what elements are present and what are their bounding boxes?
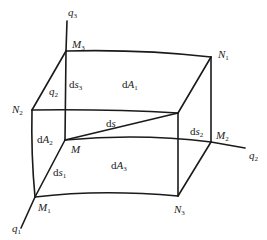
- edge-n2-m1: [32, 110, 35, 197]
- label-q2-edge: q2: [49, 86, 58, 99]
- label-m2: M2: [216, 130, 229, 143]
- label-ds2: ds2: [190, 126, 203, 139]
- label-q1: q1: [12, 223, 21, 236]
- label-q3: q3: [68, 7, 77, 20]
- axis-q3: [66, 21, 67, 51]
- edge-m3-n1: [66, 51, 211, 57]
- edge-ds: [65, 113, 178, 140]
- axis-q1: [21, 197, 35, 228]
- label-dA3: dA3: [111, 160, 127, 173]
- label-ds1: ds1: [53, 167, 66, 180]
- edge-n2-top-corner: [32, 110, 178, 113]
- label-n2: N2: [12, 104, 23, 117]
- edge-m1-n3: [35, 193, 178, 197]
- label-ds3: ds3: [69, 79, 82, 92]
- label-m: M: [71, 144, 80, 155]
- label-m3: M3: [72, 39, 85, 52]
- edge-m3-m: [65, 51, 66, 140]
- label-dA2: dA2: [37, 134, 53, 147]
- edge-m3-n2: [32, 51, 66, 110]
- label-q2-axis: q2: [249, 150, 258, 163]
- label-n3: N3: [174, 204, 185, 217]
- edge-n3-m2: [178, 142, 211, 196]
- label-ds: ds: [106, 118, 116, 129]
- label-m1: M1: [38, 202, 51, 215]
- label-n1: N1: [218, 49, 229, 62]
- edge-n1-top-corner: [178, 57, 211, 113]
- label-dA1: dA1: [122, 79, 138, 92]
